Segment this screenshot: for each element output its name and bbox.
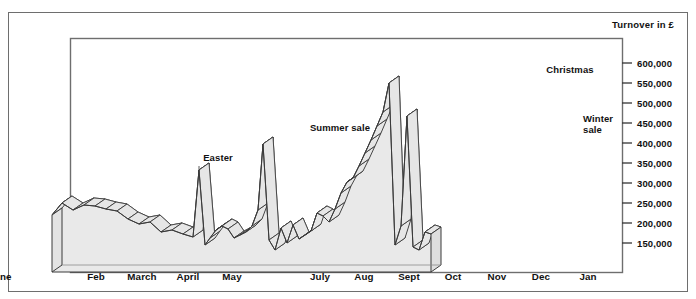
xtick-label-nov: Nov [488,271,507,282]
annotation-summer-sale: Summer sale [310,122,370,133]
ytick-label-200000: 200,000 [637,218,672,229]
chart-figure: Turnover in £ 600,000 550,000 500,000 45… [0,0,696,299]
ytick-label-300000: 300,000 [637,178,672,189]
ytick-label-350000: 350,000 [637,158,672,169]
ytick-label-250000: 250,000 [637,198,672,209]
xtick-label-feb: Feb [87,271,105,282]
xtick-label-april: April [177,271,200,282]
xtick-label-july: July [310,271,330,282]
annotation-winter-sale: Winter sale [583,113,615,135]
xtick-label-sept: Sept [398,271,420,282]
annotation-easter: Easter [203,152,233,163]
annotation-christmas: Christmas [546,64,593,75]
ytick-label-550000: 550,000 [637,78,672,89]
ytick-label-500000: 500,000 [637,98,672,109]
xtick-label-may: May [222,271,241,282]
turnover-area-chart [0,0,696,299]
xtick-label-jan: Jan [579,271,596,282]
y-axis-ticks [622,63,632,243]
ytick-label-150000: 150,000 [637,238,672,249]
ytick-label-400000: 400,000 [637,138,672,149]
xtick-label-aug: Aug [354,271,373,282]
xtick-label-dec: Dec [532,271,550,282]
series-left-endcap [52,208,62,272]
xtick-label-march: March [127,271,156,282]
xtick-label-oct: Oct [445,271,462,282]
xtick-label-june: June [0,271,12,282]
ytick-label-450000: 450,000 [637,118,672,129]
y-axis-title: Turnover in £ [612,19,674,30]
ytick-label-600000: 600,000 [637,58,672,69]
